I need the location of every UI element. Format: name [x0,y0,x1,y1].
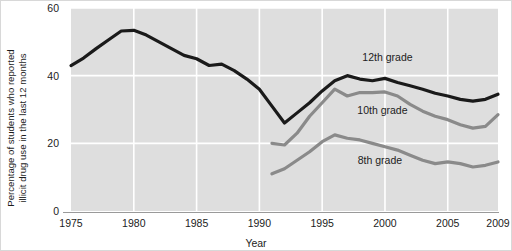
y-tick-label: 20 [47,137,59,149]
x-axis-tick-labels: 19751980198519901995200020052009 [59,217,510,229]
x-tick-label: 1985 [185,217,209,229]
y-tick-label: 0 [53,205,59,217]
x-tick-label: 1975 [59,217,83,229]
chart-figure: 0204060 19751980198519901995200020052009… [0,0,512,251]
series-label-8th-grade: 8th grade [358,154,403,166]
series-label-12th-grade: 12th grade [362,51,412,63]
x-tick-label: 1980 [122,217,146,229]
y-axis-title-line2: illicit drug use in the last 12 months [17,53,28,203]
x-axis-title: Year [245,237,267,249]
line-chart: 0204060 19751980198519901995200020052009… [0,0,512,251]
y-axis-tick-labels: 0204060 [47,2,59,217]
series-label-10th-grade: 10th grade [357,104,407,116]
x-tick-label: 1990 [248,217,272,229]
y-axis-title-line1: Percentage of students who reported [5,49,16,206]
y-tick-label: 60 [47,2,59,14]
plot-background-group [71,8,498,211]
x-tick-label: 1995 [310,217,334,229]
x-tick-label: 2009 [486,217,510,229]
x-tick-label: 2000 [373,217,397,229]
y-tick-label: 40 [47,70,59,82]
x-axis-title-group: Year [245,237,267,249]
plot-area-background [71,8,498,211]
x-tick-label: 2005 [436,217,460,229]
y-axis-title-group: Percentage of students who reported illi… [5,49,28,206]
